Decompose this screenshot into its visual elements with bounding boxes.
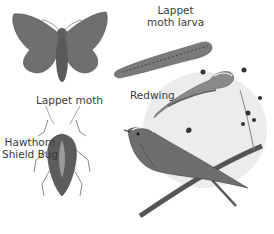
- illustration-canvas: [0, 0, 274, 234]
- shield-bug-label-line2: Shield Bug: [2, 148, 58, 160]
- lappet-moth-illustration: [13, 12, 107, 82]
- shield-bug-label: Hawthorn Shield Bug: [2, 136, 58, 160]
- lappet-larva-label-line1: Lappet: [147, 4, 204, 16]
- lappet-larva-label: Lappet moth larva: [147, 4, 204, 28]
- shield-bug-label-line1: Hawthorn: [2, 136, 58, 148]
- lappet-larva-label-line2: moth larva: [147, 16, 204, 28]
- lappet-moth-label: Lappet moth: [36, 94, 103, 106]
- redwing-label: Redwing: [130, 89, 175, 101]
